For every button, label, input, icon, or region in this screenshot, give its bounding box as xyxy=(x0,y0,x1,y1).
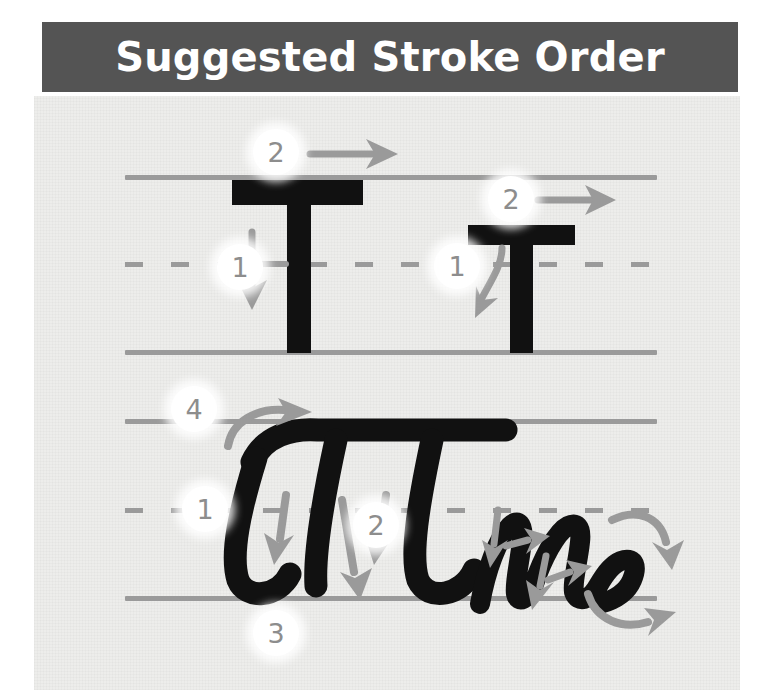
header-bar: Suggested Stroke Order xyxy=(42,22,738,92)
lowercase-m-cursive xyxy=(472,500,692,630)
badge-print-lower-t-2: 2 xyxy=(488,176,534,222)
print-row-base-line xyxy=(125,350,657,355)
badge-cursive-upper-t-4: 4 xyxy=(171,386,217,432)
badge-cursive-upper-t-3: 3 xyxy=(253,610,299,656)
page-title: Suggested Stroke Order xyxy=(115,37,665,77)
worksheet-canvas: 1 2 1 2 xyxy=(34,96,740,690)
uppercase-t-print-stroke-2-arrow xyxy=(306,134,416,174)
stroke-order-page: Suggested Stroke Order 1 2 xyxy=(0,0,774,699)
uppercase-t-print-stem xyxy=(287,180,311,353)
lowercase-t-print-stem xyxy=(510,225,533,353)
print-row-mid-line xyxy=(125,262,657,267)
lowercase-t-print-stroke-2-arrow xyxy=(534,180,634,220)
badge-print-upper-t-1: 1 xyxy=(217,244,263,290)
badge-cursive-upper-t-2: 2 xyxy=(353,502,399,548)
badge-print-upper-t-2: 2 xyxy=(253,129,299,175)
badge-print-lower-t-1: 1 xyxy=(434,243,480,289)
print-row-top-line xyxy=(125,175,657,180)
badge-cursive-upper-t-1: 1 xyxy=(182,486,228,532)
